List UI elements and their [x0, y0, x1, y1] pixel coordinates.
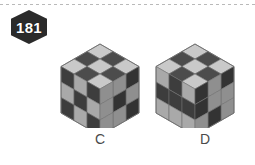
- isometric-cube-c: [60, 28, 140, 128]
- worksheet-canvas: 181 C D: [0, 0, 255, 165]
- figure-cube-d[interactable]: [155, 28, 235, 128]
- question-number-badge: 181: [9, 9, 49, 45]
- figure-label-d: D: [185, 131, 225, 147]
- dashed-divider: [0, 4, 255, 5]
- figure-label-c: C: [80, 131, 120, 147]
- isometric-cube-d: [155, 28, 235, 128]
- figure-cube-c[interactable]: [60, 28, 140, 128]
- question-number-text: 181: [9, 9, 49, 45]
